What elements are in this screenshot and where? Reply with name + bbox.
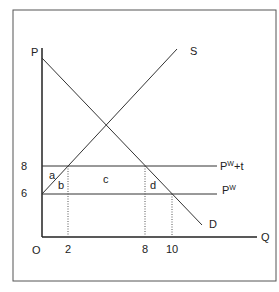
area-b-label: b (58, 179, 64, 191)
y-axis-label: P (31, 46, 38, 58)
diagram-frame (13, 10, 276, 281)
x-tick-2: 2 (65, 243, 71, 255)
demand-label: D (209, 218, 217, 230)
x-tick-10: 10 (166, 243, 178, 255)
area-c-label: c (103, 173, 109, 185)
tariff-price-label: PW+t (220, 160, 243, 172)
area-d-label: d (150, 179, 156, 191)
demand-curve (42, 58, 202, 225)
y-tick-6: 6 (21, 187, 27, 199)
origin-label: O (32, 244, 41, 256)
tariff-diagram: P Q O 8 6 2 8 10 S D PW+t PW a b c d (0, 0, 279, 292)
area-a-label: a (49, 169, 56, 181)
x-axis-label: Q (261, 231, 270, 243)
supply-curve (42, 49, 177, 194)
supply-label: S (190, 45, 197, 57)
x-tick-8: 8 (142, 243, 148, 255)
y-tick-8: 8 (21, 160, 27, 172)
world-price-label: PW (222, 184, 236, 196)
